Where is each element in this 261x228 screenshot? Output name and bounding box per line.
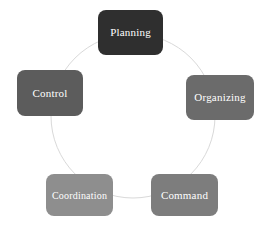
node-control[interactable]: Control — [17, 70, 83, 116]
diagram-canvas: Planning Organizing Command Coordination… — [0, 0, 261, 228]
node-command-label: Command — [158, 189, 211, 201]
node-coordination-label: Coordination — [49, 190, 110, 201]
node-coordination[interactable]: Coordination — [46, 174, 113, 216]
node-planning-label: Planning — [107, 26, 154, 38]
node-organizing-label: Organizing — [191, 91, 248, 103]
node-control-label: Control — [29, 87, 70, 99]
node-planning[interactable]: Planning — [98, 10, 163, 55]
node-organizing[interactable]: Organizing — [186, 75, 254, 120]
node-command[interactable]: Command — [151, 174, 218, 216]
